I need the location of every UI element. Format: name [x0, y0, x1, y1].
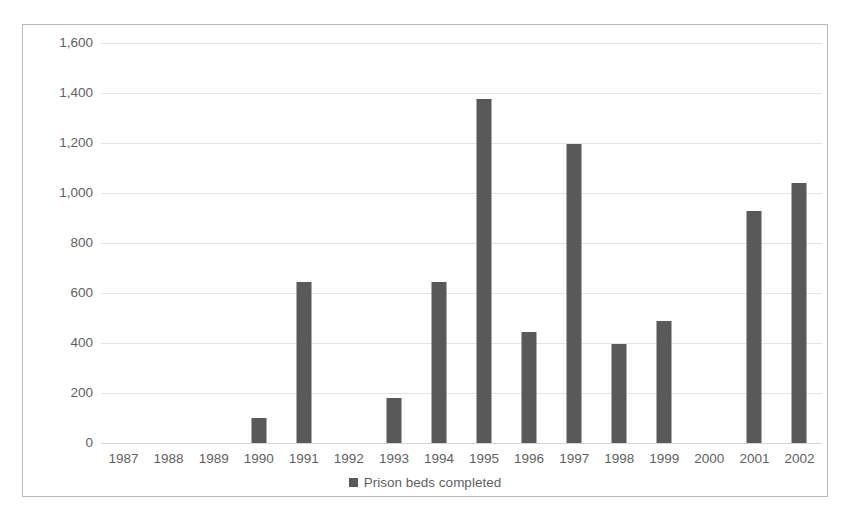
x-axis-tick-label: 1988 — [154, 449, 184, 469]
y-axis-tick-label: 200 — [41, 386, 93, 400]
x-axis-tick-label: 1999 — [649, 449, 679, 469]
bar-slot — [326, 43, 371, 443]
x-axis-tick-label: 2001 — [739, 449, 769, 469]
bar-slot — [732, 43, 777, 443]
x-axis: 1987198819891990199119921993199419951996… — [101, 449, 822, 473]
y-axis-tick-label: 0 — [41, 436, 93, 450]
x-axis-tick-label: 1995 — [469, 449, 499, 469]
bar — [657, 321, 672, 444]
x-axis-tick-label: 1996 — [514, 449, 544, 469]
chart-frame: 02004006008001,0001,2001,4001,600 198719… — [22, 24, 828, 497]
y-axis-tick-label: 1,000 — [41, 186, 93, 200]
plot-area — [101, 43, 822, 443]
bar-slot — [642, 43, 687, 443]
x-axis-tick-label: 1990 — [244, 449, 274, 469]
bar-slot — [462, 43, 507, 443]
bar-slot — [101, 43, 146, 443]
bar-slot — [146, 43, 191, 443]
x-axis-tick-label: 1997 — [559, 449, 589, 469]
x-axis-tick-label: 2000 — [694, 449, 724, 469]
bar — [522, 332, 537, 443]
bar — [792, 183, 807, 443]
bar-slot — [597, 43, 642, 443]
bar-slot — [371, 43, 416, 443]
bar-slot — [552, 43, 597, 443]
bar — [612, 344, 627, 443]
bar-slot — [507, 43, 552, 443]
bar-slot — [777, 43, 822, 443]
x-axis-tick-label: 1989 — [199, 449, 229, 469]
chart-legend: Prison beds completed — [23, 476, 827, 490]
bar — [431, 282, 446, 443]
bar — [477, 99, 492, 443]
bar-slot — [191, 43, 236, 443]
bar — [296, 282, 311, 443]
x-axis-tick-label: 1994 — [424, 449, 454, 469]
y-axis-tick-label: 1,600 — [41, 36, 93, 50]
bar-slot — [416, 43, 461, 443]
y-axis: 02004006008001,0001,2001,4001,600 — [33, 43, 93, 443]
bar — [386, 398, 401, 443]
legend-swatch-icon — [349, 478, 358, 487]
x-axis-tick-label: 1998 — [604, 449, 634, 469]
x-axis-tick-label: 2002 — [784, 449, 814, 469]
bar-slot — [281, 43, 326, 443]
bar-series-prison-beds-completed — [101, 43, 822, 443]
bar — [567, 144, 582, 443]
bar — [251, 418, 266, 443]
y-axis-tick-label: 800 — [41, 236, 93, 250]
x-axis-tick-label: 1991 — [289, 449, 319, 469]
y-axis-tick-label: 1,200 — [41, 136, 93, 150]
bar-slot — [687, 43, 732, 443]
y-axis-tick-label: 400 — [41, 336, 93, 350]
y-axis-tick-label: 600 — [41, 286, 93, 300]
x-axis-tick-label: 1993 — [379, 449, 409, 469]
bar-slot — [236, 43, 281, 443]
bar — [747, 211, 762, 444]
x-axis-tick-label: 1987 — [109, 449, 139, 469]
axis-baseline — [101, 443, 822, 444]
legend-label: Prison beds completed — [364, 476, 501, 490]
x-axis-tick-label: 1992 — [334, 449, 364, 469]
y-axis-tick-label: 1,400 — [41, 86, 93, 100]
